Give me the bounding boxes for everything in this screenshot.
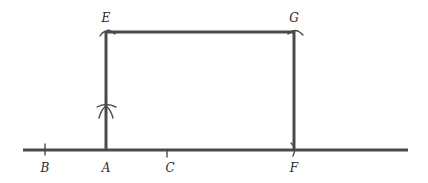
label-E: E <box>101 11 111 25</box>
label-B: B <box>40 161 50 175</box>
label-C: C <box>165 161 174 175</box>
label-A: A <box>101 161 111 175</box>
label-G: G <box>289 11 299 25</box>
construction-diagram: E G B A C F <box>0 0 428 183</box>
label-F: F <box>289 161 299 175</box>
